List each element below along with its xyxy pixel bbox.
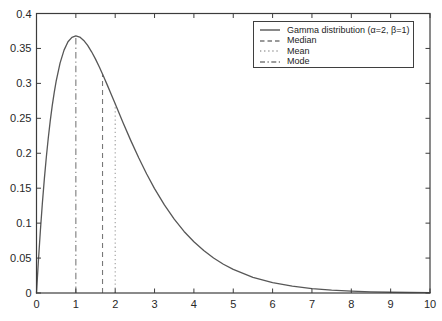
- legend-label-mode: Mode: [287, 57, 310, 66]
- x-tick-label: 5: [230, 298, 236, 310]
- legend-box: Gamma distribution (α=2, β=1) Median Mea…: [253, 21, 414, 68]
- x-tick-label: 1: [73, 298, 79, 310]
- legend-entry-gamma: Gamma distribution (α=2, β=1): [260, 25, 413, 36]
- x-tick-label: 8: [348, 298, 354, 310]
- y-tick-label: 0: [25, 287, 31, 299]
- x-tick-label: 7: [309, 298, 315, 310]
- x-tick-label: 9: [388, 298, 394, 310]
- y-tick-label: 0.1: [16, 217, 31, 229]
- legend-label-median: Median: [287, 36, 317, 45]
- y-tick-label: 0.25: [10, 112, 31, 124]
- x-tick-label: 6: [270, 298, 276, 310]
- dashdot-line-sample-icon: [260, 60, 280, 64]
- y-tick-label: 0.4: [16, 8, 31, 20]
- x-tick-label: 2: [112, 298, 118, 310]
- y-tick-label: 0.15: [10, 182, 31, 194]
- x-tick-label: 0: [33, 298, 39, 310]
- legend-label-mean: Mean: [287, 47, 310, 56]
- y-tick-label: 0.2: [16, 147, 31, 159]
- gamma-distribution-figure: 01234567891000.050.10.150.20.250.30.350.…: [0, 0, 442, 321]
- x-tick-label: 10: [424, 298, 436, 310]
- legend-label-gamma: Gamma distribution (α=2, β=1): [287, 26, 409, 35]
- dotted-line-sample-icon: [260, 49, 280, 53]
- solid-line-sample-icon: [260, 28, 280, 32]
- x-tick-label: 3: [151, 298, 157, 310]
- curve-series-0: [37, 36, 431, 293]
- legend-entry-mode: Mode: [260, 57, 413, 68]
- legend-entry-median: Median: [260, 36, 413, 47]
- y-tick-label: 0.35: [10, 42, 31, 54]
- dashed-line-sample-icon: [260, 39, 280, 43]
- x-tick-label: 4: [191, 298, 197, 310]
- legend-entry-mean: Mean: [260, 46, 413, 57]
- y-tick-label: 0.3: [16, 77, 31, 89]
- y-tick-label: 0.05: [10, 252, 31, 264]
